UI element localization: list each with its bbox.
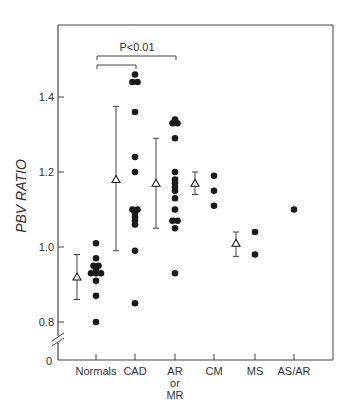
- data-point: [174, 217, 181, 224]
- data-point: [132, 221, 139, 228]
- data-point: [211, 172, 218, 179]
- data-point: [98, 270, 105, 277]
- y-origin-label: 0: [46, 355, 52, 367]
- data-point: [211, 187, 218, 194]
- data-point: [172, 195, 179, 202]
- x-tick-label-ms: MS: [247, 365, 264, 377]
- data-point: [172, 225, 179, 232]
- mean-triangle-icon: [152, 179, 160, 186]
- y-axis-label: PBV RATIO: [13, 159, 29, 233]
- series-cm: [191, 172, 217, 209]
- data-point: [172, 135, 179, 142]
- series-ar_mr: [152, 116, 181, 276]
- data-point: [211, 202, 218, 209]
- mean-triangle-icon: [73, 273, 81, 280]
- y-tick-label: 1.2: [39, 166, 54, 178]
- data-point: [132, 154, 139, 161]
- data-point: [132, 247, 139, 254]
- data-point: [174, 120, 181, 127]
- significance-annotation: P<0.01: [97, 41, 176, 69]
- data-point: [291, 206, 298, 213]
- data-point: [93, 277, 100, 284]
- pbv-ratio-chart: 1.41.21.00.80 PBV RATIO NormalsCADARorMR…: [0, 0, 351, 412]
- x-tick-label-ar_mr: or: [170, 377, 180, 389]
- x-tick-label-as_ar: AS/AR: [277, 365, 310, 377]
- data-point: [252, 251, 259, 258]
- y-tick-label: 0.8: [39, 316, 54, 328]
- x-tick-label-cad: CAD: [123, 365, 146, 377]
- mean-triangle-icon: [112, 176, 120, 183]
- data-point: [172, 270, 179, 277]
- y-tick-label: 1.4: [39, 91, 54, 103]
- bracket-inner: [97, 65, 136, 69]
- data-point: [172, 187, 179, 194]
- data-point: [252, 229, 259, 236]
- mean-triangle-icon: [191, 179, 199, 186]
- data-point: [93, 292, 100, 299]
- y-axis: 1.41.21.00.80: [39, 25, 64, 367]
- x-tick-label-normals: Normals: [76, 365, 117, 377]
- data-points-layer: [73, 71, 297, 325]
- p-value-label: P<0.01: [119, 41, 154, 53]
- series-cad: [112, 71, 141, 306]
- data-point: [172, 206, 179, 213]
- data-point: [132, 71, 139, 78]
- data-point: [132, 300, 139, 307]
- x-tick-label-ar_mr: AR: [167, 365, 182, 377]
- x-tick-label-cm: CM: [205, 365, 222, 377]
- data-point: [93, 255, 100, 262]
- series-normals: [73, 240, 104, 325]
- data-point: [93, 240, 100, 247]
- bracket-outer: [97, 56, 176, 60]
- x-tick-label-ar_mr: MR: [166, 389, 183, 401]
- mean-triangle-icon: [232, 239, 240, 246]
- data-point: [132, 109, 139, 116]
- data-point: [172, 169, 179, 176]
- data-point: [134, 79, 141, 86]
- y-tick-label: 1.0: [39, 241, 54, 253]
- series-as_ar: [291, 206, 298, 213]
- series-ms: [232, 229, 258, 258]
- x-axis: NormalsCADARorMRCMMSAS/AR: [58, 354, 333, 401]
- data-point: [132, 169, 139, 176]
- data-point: [93, 319, 100, 326]
